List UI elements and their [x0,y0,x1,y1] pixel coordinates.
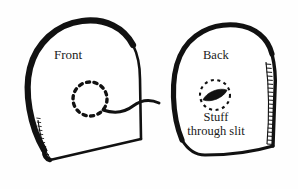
mitten-diagram: Front Back Stuff through slit [0,0,298,189]
mitten-outline-front [28,19,141,163]
diagram-canvas [0,0,298,189]
